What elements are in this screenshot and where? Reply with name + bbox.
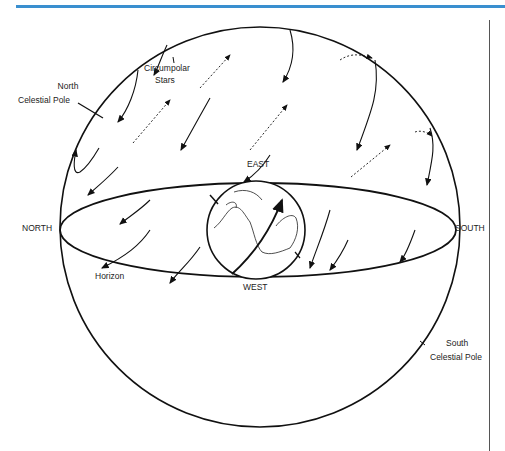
celestial-sphere-diagram xyxy=(0,0,505,451)
south-celestial-pole-label-1: South xyxy=(446,338,468,349)
south-label: SOUTH xyxy=(455,223,485,234)
east-label: EAST xyxy=(247,159,269,170)
north-celestial-pole-label-1: North xyxy=(38,81,98,92)
circumpolar-stars-label-1: Circumpolar xyxy=(144,63,190,74)
horizon-label: Horizon xyxy=(95,271,124,282)
circumpolar-stars-label-2: Stars xyxy=(155,75,175,86)
earth-globe xyxy=(207,181,305,279)
west-label: WEST xyxy=(243,282,268,293)
north-label: NORTH xyxy=(22,223,52,234)
north-celestial-pole-label-2: Celestial Pole xyxy=(18,95,70,106)
south-celestial-pole-label-2: Celestial Pole xyxy=(430,352,482,363)
